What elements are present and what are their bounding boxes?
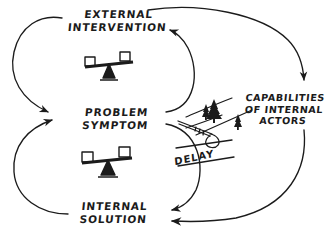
node-label-line: INTERVENTION xyxy=(61,21,174,34)
link-external-intervention-to-problem-symptom xyxy=(13,17,62,112)
diagram-canvas: EXTERNAL INTERVENTION PROBLEM SYMPTOM IN… xyxy=(0,0,333,239)
node-label-line: CAPABILITIES xyxy=(245,92,326,103)
node-label-line: ACTORS xyxy=(236,115,329,127)
link-internal-solution-to-problem-symptom xyxy=(14,120,68,214)
node-label-line: PROBLEM xyxy=(84,106,149,118)
balance-scale-icon xyxy=(85,52,133,80)
node-label-line: SYMPTOM xyxy=(65,119,166,132)
node-label-line: SOLUTION xyxy=(59,213,168,226)
link-capabilities-to-internal-solution xyxy=(172,130,304,222)
node-internal-solution: INTERNAL SOLUTION xyxy=(59,200,170,225)
node-capabilities-of-internal-actors: CAPABILITIES OF INTERNAL ACTORS xyxy=(236,92,332,127)
link-problem-symptom-to-internal-solution xyxy=(166,124,200,210)
balance-scale-icon xyxy=(82,147,132,177)
node-label-line: OF INTERNAL xyxy=(237,104,330,116)
node-label-line: INTERNAL xyxy=(81,200,148,212)
node-label-line: EXTERNAL xyxy=(84,8,154,20)
node-external-intervention: EXTERNAL INTERVENTION xyxy=(61,8,176,33)
link-problem-symptom-to-external-intervention xyxy=(166,30,194,112)
node-problem-symptom: PROBLEM SYMPTOM xyxy=(65,106,168,131)
